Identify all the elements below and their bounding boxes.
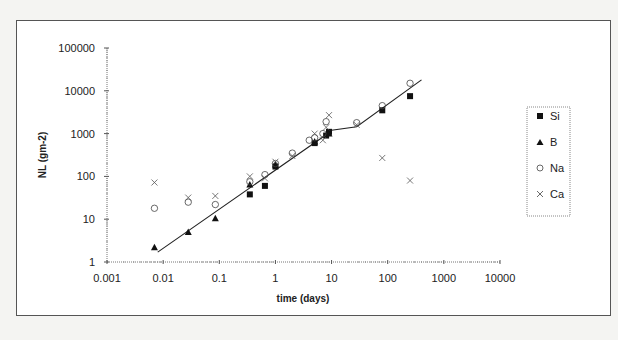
axes — [107, 48, 500, 262]
data-point-b — [212, 215, 219, 222]
legend-circle-icon — [537, 165, 543, 171]
y-tick-label: 100 — [77, 170, 95, 182]
x-axis-title: time (days) — [277, 293, 330, 304]
x-tick-label: 100 — [379, 272, 397, 284]
data-point-ca — [379, 155, 385, 161]
data-point-na — [407, 80, 413, 86]
fit-line — [158, 80, 422, 252]
legend: Si B Na Ca — [527, 107, 570, 216]
legend-label-si: Si — [550, 110, 560, 122]
data-point-ca — [320, 137, 326, 143]
data-point-si — [407, 93, 413, 99]
data-point-na — [323, 118, 329, 124]
chart-plot: 0.0010.010.1110100100010000 110100100010… — [0, 0, 618, 340]
legend-square-icon — [537, 113, 543, 119]
data-point-ca — [185, 195, 191, 201]
y-tick-label: 1 — [89, 256, 95, 268]
x-tick-label: 0.001 — [93, 272, 121, 284]
data-point-ca — [212, 193, 218, 199]
data-point-na — [289, 150, 295, 156]
legend-label-na: Na — [550, 162, 565, 174]
x-tick-label: 1 — [272, 272, 278, 284]
x-tick-label: 0.01 — [152, 272, 173, 284]
data-point-ca — [326, 112, 332, 118]
data-point-si — [247, 191, 253, 197]
y-tick-label: 1000 — [71, 128, 95, 140]
legend-label-ca: Ca — [550, 188, 565, 200]
y-tick-label: 10 — [83, 213, 95, 225]
data-point-si — [262, 183, 268, 189]
y-tick-label: 10000 — [64, 85, 95, 97]
data-point-na — [151, 205, 157, 211]
data-point-ca — [407, 178, 413, 184]
legend-label-b: B — [550, 136, 557, 148]
data-point-b — [151, 244, 158, 251]
x-tick-label: 1000 — [432, 272, 456, 284]
data-point-na — [212, 201, 218, 207]
y-axis-ticks: 110100100010000100000 — [58, 42, 109, 268]
x-tick-label: 10 — [325, 272, 337, 284]
x-tick-label: 10000 — [485, 272, 516, 284]
data-point-ca — [151, 180, 157, 186]
x-axis-ticks: 0.0010.010.1110100100010000 — [93, 260, 515, 284]
x-tick-label: 0.1 — [212, 272, 227, 284]
data-point-ca — [312, 131, 318, 137]
y-tick-label: 100000 — [58, 42, 95, 54]
y-axis-title: NL (gm-2) — [37, 132, 48, 178]
